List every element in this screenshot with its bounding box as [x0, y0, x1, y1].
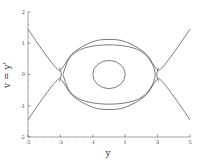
x-tick-label: -5	[26, 139, 31, 145]
x-tick-label: 1	[124, 139, 127, 145]
series-inner-closed-orbit	[93, 60, 125, 88]
x-tick-label: -1	[90, 139, 95, 145]
series-lower-separatrix	[28, 78, 190, 119]
x-tick-label: -3	[58, 139, 63, 145]
x-axis-title: y	[104, 148, 111, 158]
x-tick-label: 5	[188, 139, 191, 145]
y-tick-label: 2	[22, 9, 25, 15]
series-outer-closed-orbit	[63, 45, 155, 104]
y-tick-label: -2	[20, 134, 25, 140]
y-axis-title: v = y'	[2, 62, 12, 89]
y-tick-label: -1	[20, 103, 25, 109]
y-tick-label: 0	[22, 71, 25, 77]
series-upper-separatrix	[28, 29, 190, 70]
y-tick-label: 1	[22, 40, 25, 46]
axes: -5-3-1135-2-1012	[20, 9, 191, 145]
plot-area	[28, 29, 190, 120]
phase-portrait-chart: -5-3-1135-2-1012 y v = y'	[0, 0, 200, 160]
x-tick-label: 3	[156, 139, 159, 145]
